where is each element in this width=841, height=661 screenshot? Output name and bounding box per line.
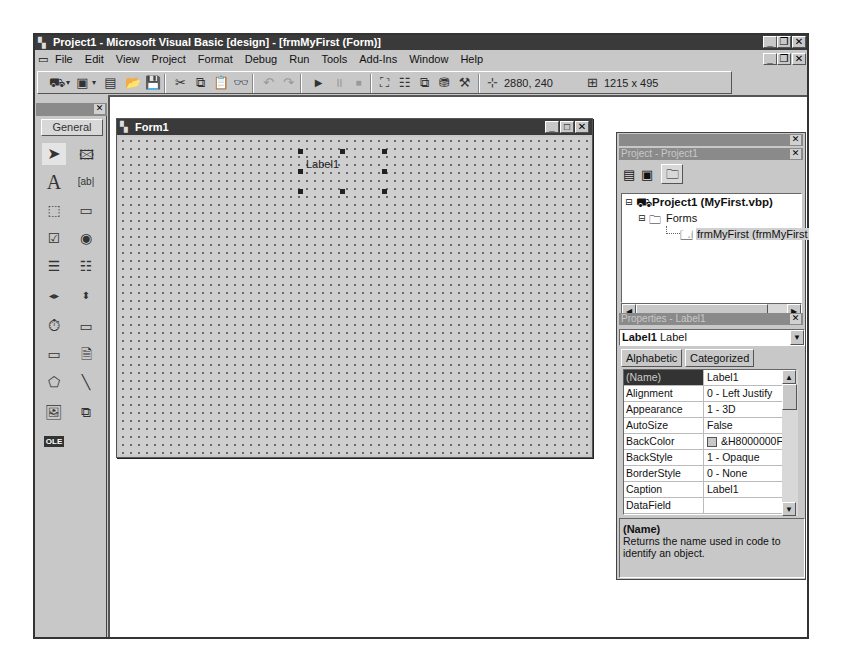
view-object-icon[interactable]: ▣ <box>641 167 653 182</box>
undo-icon[interactable]: ↶ <box>260 75 277 91</box>
add-form-icon[interactable]: ▣ <box>74 75 91 91</box>
property-row[interactable]: BackColor &H8000000F <box>624 434 782 450</box>
form-design-surface[interactable]: Label1 <box>119 137 590 455</box>
tree-project-node[interactable]: Project1 (MyFirst.vbp) <box>652 196 773 208</box>
add-form-dropdown-icon[interactable]: ▾ <box>90 75 98 91</box>
tab-alphabetic[interactable]: Alphabetic <box>621 349 682 367</box>
toggle-folders-icon[interactable]: 🗀 <box>661 164 683 184</box>
scroll-thumb[interactable] <box>782 384 797 410</box>
data-tool-icon[interactable]: ⧉ <box>74 401 98 423</box>
menu-edit[interactable]: Edit <box>85 51 104 68</box>
resize-handle-nw[interactable] <box>298 149 303 154</box>
menu-window[interactable]: Window <box>409 51 448 68</box>
menu-view[interactable]: View <box>116 51 140 68</box>
dirlistbox-tool-icon[interactable]: ▭ <box>42 343 66 365</box>
timer-tool-icon[interactable]: ⏱ <box>42 315 66 337</box>
add-project-icon[interactable]: ⛟ <box>48 75 65 91</box>
copy-icon[interactable]: ⧉ <box>192 75 209 91</box>
mdi-child-icon[interactable]: ▭ <box>38 51 48 68</box>
property-row[interactable]: DataField <box>624 498 782 514</box>
scroll-up-button[interactable]: ▲ <box>782 370 796 384</box>
minimize-button[interactable]: _ <box>763 36 777 48</box>
form-maximize-button[interactable]: □ <box>560 121 574 133</box>
resize-handle-s[interactable] <box>340 189 345 194</box>
listbox-tool-icon[interactable]: ☷ <box>74 255 98 277</box>
add-project-dropdown-icon[interactable]: ▾ <box>64 75 72 91</box>
tab-categorized[interactable]: Categorized <box>685 349 754 367</box>
start-icon[interactable]: ▶ <box>310 75 327 91</box>
form-close-button[interactable]: ✕ <box>575 121 589 133</box>
frame-tool-icon[interactable]: ⬚ <box>42 199 66 221</box>
line-tool-icon[interactable]: ╲ <box>74 371 98 393</box>
checkbox-tool-icon[interactable]: ☑ <box>42 227 66 249</box>
vscrollbar-tool-icon[interactable]: ⬍ <box>74 285 98 307</box>
property-value[interactable] <box>705 498 782 513</box>
filelistbox-tool-icon[interactable]: 🗎 <box>74 343 98 365</box>
menu-add-ins[interactable]: Add-Ins <box>359 51 397 68</box>
menu-format[interactable]: Format <box>198 51 233 68</box>
textbox-tool-icon[interactable]: [ab| <box>74 171 98 193</box>
resize-handle-ne[interactable] <box>382 149 387 154</box>
resize-handle-e[interactable] <box>382 169 387 174</box>
property-row[interactable]: (Name) Label1 <box>624 370 782 386</box>
resize-handle-w[interactable] <box>298 169 303 174</box>
pointer-tool-icon[interactable]: ➤ <box>42 143 66 165</box>
break-icon[interactable]: ॥ <box>330 75 347 91</box>
child-restore-button[interactable]: ❐ <box>777 53 791 65</box>
resize-handle-n[interactable] <box>340 149 345 154</box>
property-row[interactable]: BackStyle 1 - Opaque <box>624 450 782 466</box>
redo-icon[interactable]: ↷ <box>280 75 297 91</box>
menu-run[interactable]: Run <box>289 51 309 68</box>
toolbox-tab-general[interactable]: General <box>41 119 103 136</box>
picturebox-tool-icon[interactable]: 🖾 <box>74 143 98 165</box>
menu-help[interactable]: Help <box>460 51 483 68</box>
property-value[interactable]: Label1 <box>705 370 782 385</box>
shape-tool-icon[interactable]: ⬠ <box>42 371 66 393</box>
property-row[interactable]: Caption Label1 <box>624 482 782 498</box>
form-minimize-button[interactable]: _ <box>545 121 559 133</box>
property-value[interactable]: &H8000000F <box>705 434 782 449</box>
property-row[interactable]: BorderStyle 0 - None <box>624 466 782 482</box>
toolbox-close-icon[interactable]: ✕ <box>94 104 105 114</box>
hscrollbar-tool-icon[interactable]: ◂▸ <box>42 285 66 307</box>
child-minimize-button[interactable]: _ <box>763 53 777 65</box>
property-row[interactable]: AutoSize False <box>624 418 782 434</box>
save-project-icon[interactable]: 💾 <box>144 75 161 91</box>
property-value[interactable]: False <box>705 418 782 433</box>
image-tool-icon[interactable]: 🖼 <box>42 401 66 423</box>
menu-editor-icon[interactable]: ▤ <box>102 75 119 91</box>
tree-forms-node[interactable]: Forms <box>666 212 697 224</box>
label1-control[interactable]: Label1 <box>300 151 384 190</box>
form-layout-icon[interactable]: ⧉ <box>416 75 433 91</box>
properties-close-icon[interactable]: ✕ <box>790 314 801 324</box>
property-row[interactable]: Alignment 0 - Left Justify <box>624 386 782 402</box>
restore-button[interactable]: ❐ <box>777 36 791 48</box>
project-explorer-close-icon[interactable]: ✕ <box>790 149 801 159</box>
child-close-button[interactable]: ✕ <box>792 53 806 65</box>
tree-form-node[interactable]: frmMyFirst (frmMyFirst <box>696 228 809 240</box>
project-explorer-icon[interactable]: ⛶ <box>376 75 393 91</box>
ole-tool-icon[interactable]: OLE <box>42 431 66 453</box>
menu-project[interactable]: Project <box>152 51 186 68</box>
open-project-icon[interactable]: 📂 <box>124 75 141 91</box>
commandbutton-tool-icon[interactable]: ▭ <box>74 199 98 221</box>
end-icon[interactable]: ■ <box>350 75 367 91</box>
menu-tools[interactable]: Tools <box>322 51 348 68</box>
menu-debug[interactable]: Debug <box>245 51 277 68</box>
optionbutton-tool-icon[interactable]: ◉ <box>74 227 98 249</box>
property-value[interactable]: 1 - 3D <box>705 402 782 417</box>
property-value[interactable]: 1 - Opaque <box>705 450 782 465</box>
dock-close-icon[interactable]: ✕ <box>790 135 801 145</box>
object-browser-icon[interactable]: ⛃ <box>436 75 453 91</box>
form-designer-window[interactable]: ▚ Form1 _ □ ✕ Label1 <box>116 118 593 458</box>
collapse-project-icon[interactable]: ⊟ <box>625 197 633 207</box>
resize-handle-sw[interactable] <box>298 189 303 194</box>
view-code-icon[interactable]: ▤ <box>623 167 635 182</box>
find-icon[interactable]: 👓 <box>232 75 249 91</box>
property-value[interactable]: Label1 <box>705 482 782 497</box>
object-selector-combo[interactable]: Label1 Label ▼ <box>619 329 805 346</box>
resize-handle-se[interactable] <box>382 189 387 194</box>
toolbox-icon[interactable]: ⚒ <box>456 75 473 91</box>
close-button[interactable]: ✕ <box>792 36 806 48</box>
paste-icon[interactable]: 📋 <box>212 75 229 91</box>
